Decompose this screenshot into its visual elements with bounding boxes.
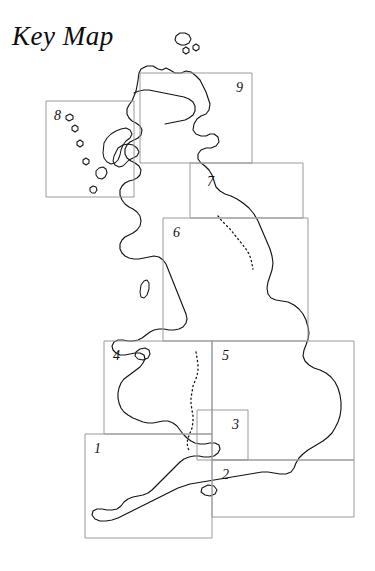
grid-cell-rect-5[interactable] (212, 341, 354, 460)
grid-cell-label-3[interactable]: 3 (232, 418, 239, 432)
grid-cell-rect-6[interactable] (163, 218, 308, 341)
grid-layer (0, 0, 375, 571)
grid-cell-label-4[interactable]: 4 (113, 349, 120, 363)
grid-cell-label-9[interactable]: 9 (236, 81, 243, 95)
key-map-page: Key Map (0, 0, 375, 571)
grid-cell-label-6[interactable]: 6 (173, 226, 180, 240)
grid-cell-rect-7[interactable] (190, 163, 303, 218)
grid-cell-label-2[interactable]: 2 (222, 468, 229, 482)
grid-cell-rect-3[interactable] (197, 410, 248, 460)
grid-cell-label-8[interactable]: 8 (54, 109, 61, 123)
grid-cell-label-7[interactable]: 7 (207, 175, 214, 189)
grid-cell-rect-1[interactable] (85, 434, 212, 538)
grid-cell-label-1[interactable]: 1 (94, 442, 101, 456)
grid-cell-rect-2[interactable] (212, 460, 354, 517)
map-stage: 1 2 3 4 5 6 7 8 9 (0, 0, 375, 571)
grid-cell-label-5[interactable]: 5 (222, 349, 229, 363)
grid-cell-rect-4[interactable] (104, 341, 212, 434)
